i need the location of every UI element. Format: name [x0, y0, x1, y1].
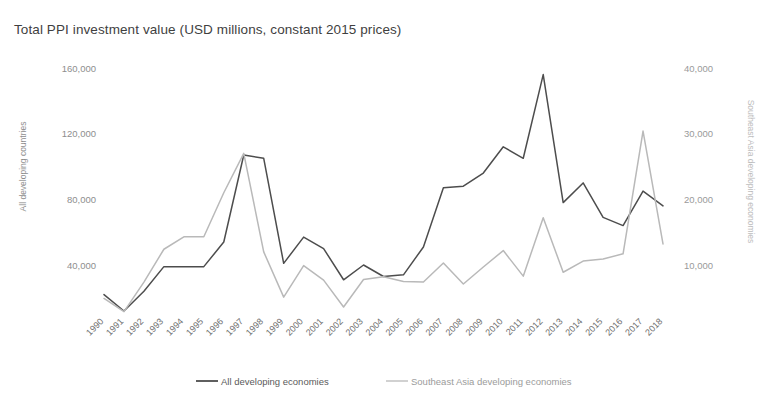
x-axis-tick: 2009 — [464, 316, 485, 337]
chart-container: 160,000120,00080,00040,000All developing… — [0, 0, 771, 411]
series-line — [104, 131, 663, 312]
x-axis-tick: 1993 — [144, 316, 165, 337]
right-axis-tick: 20,000 — [684, 194, 713, 205]
left-axis-tick: 160,000 — [62, 63, 96, 74]
x-axis-tick: 1991 — [104, 316, 125, 337]
x-axis-tick: 2007 — [424, 316, 445, 337]
right-axis-tick: 30,000 — [684, 128, 713, 139]
x-axis-tick: 1992 — [124, 316, 145, 337]
x-axis-tick: 2011 — [504, 316, 525, 337]
left-axis-tick: 80,000 — [67, 194, 96, 205]
x-axis-tick: 2012 — [523, 316, 544, 337]
left-axis-tick: 40,000 — [67, 260, 96, 271]
x-axis-tick: 1994 — [164, 316, 185, 337]
legend-group: All developing economiesSoutheast Asia d… — [196, 376, 572, 387]
x-axis-tick: 2000 — [284, 316, 305, 337]
legend-label[interactable]: All developing economies — [221, 376, 329, 387]
x-axis-tick: 1999 — [264, 316, 285, 337]
chart-svg: 160,000120,00080,00040,000All developing… — [0, 0, 771, 411]
legend-label[interactable]: Southeast Asia developing economies — [411, 376, 572, 387]
x-axis-tick: 2006 — [404, 316, 425, 337]
x-axis-tick: 1997 — [224, 316, 245, 337]
x-axis-tick: 2008 — [444, 316, 465, 337]
right-axis-tick: 10,000 — [684, 260, 713, 271]
x-axis-group: 1990199119921993199419951996199719981999… — [84, 316, 664, 337]
x-axis-tick: 2015 — [583, 316, 604, 337]
x-axis-tick: 2010 — [483, 316, 504, 337]
right-axis-tick: 40,000 — [684, 63, 713, 74]
x-axis-tick: 2014 — [563, 316, 584, 337]
x-axis-tick: 2018 — [643, 316, 664, 337]
x-axis-tick: 2001 — [304, 316, 325, 337]
right-axis-group: 40,00030,00020,00010,000Southeast Asia d… — [684, 63, 756, 271]
x-axis-tick: 2016 — [603, 316, 624, 337]
left-axis-tick: 120,000 — [62, 128, 96, 139]
x-axis-tick: 1998 — [244, 316, 265, 337]
x-axis-tick: 2003 — [344, 316, 365, 337]
left-axis-title: All developing countries — [18, 122, 28, 212]
x-axis-tick: 2013 — [543, 316, 564, 337]
x-axis-tick: 2017 — [623, 316, 644, 337]
x-axis-tick: 2002 — [324, 316, 345, 337]
x-axis-tick: 2004 — [364, 316, 385, 337]
left-axis-group: 160,000120,00080,00040,000All developing… — [18, 63, 96, 271]
x-axis-tick: 1995 — [184, 316, 205, 337]
series-group — [104, 75, 663, 312]
series-line — [104, 75, 663, 311]
right-axis-title: Southeast Asia developing economies — [746, 100, 756, 244]
x-axis-tick: 1996 — [204, 316, 225, 337]
x-axis-tick: 1990 — [84, 316, 105, 337]
x-axis-tick: 2005 — [384, 316, 405, 337]
